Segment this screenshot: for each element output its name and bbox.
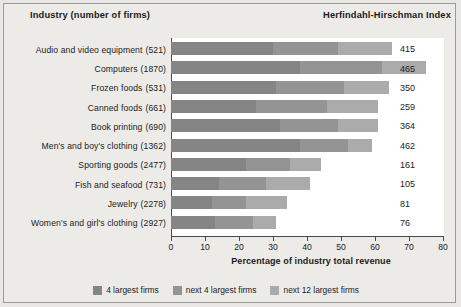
bar-segment[interactable]	[171, 177, 219, 190]
hhi-value: 350	[400, 83, 440, 93]
x-tick	[205, 237, 206, 241]
stacked-bar[interactable]	[171, 196, 287, 209]
firm-count: (521)	[145, 45, 166, 55]
bar-segment[interactable]	[171, 42, 273, 55]
category-label: Canned foods(661)	[88, 103, 166, 113]
bar-segment[interactable]	[256, 100, 327, 113]
bar-segment[interactable]	[171, 216, 215, 229]
x-tick	[341, 237, 342, 241]
bar-segment[interactable]	[338, 42, 392, 55]
x-tick	[409, 237, 410, 241]
legend: 4 largest firmsnext 4 largest firmsnext …	[0, 285, 461, 295]
x-tick-label: 50	[331, 242, 351, 252]
bar-segment[interactable]	[300, 61, 382, 74]
stacked-bar[interactable]	[171, 158, 321, 171]
x-tick-label: 60	[365, 242, 385, 252]
firm-count: (1870)	[141, 64, 166, 74]
legend-item[interactable]: 4 largest firms	[93, 285, 159, 295]
hhi-value: 161	[400, 160, 440, 170]
bar-segment[interactable]	[212, 196, 246, 209]
legend-swatch	[270, 286, 279, 295]
legend-label: next 12 largest firms	[283, 285, 358, 295]
hhi-value: 364	[400, 121, 440, 131]
firm-count: (1362)	[141, 141, 166, 151]
x-tick-label: 80	[433, 242, 453, 252]
industry-column-title: Industry (number of firms)	[30, 10, 150, 20]
firm-count: (690)	[145, 122, 166, 132]
firm-count: (531)	[145, 83, 166, 93]
category-label: Frozen foods(531)	[91, 83, 166, 93]
x-tick	[171, 237, 172, 241]
bar-segment[interactable]	[171, 196, 212, 209]
stacked-bar[interactable]	[171, 61, 426, 74]
x-tick-label: 0	[161, 242, 181, 252]
hhi-value: 415	[400, 44, 440, 54]
bar-segment[interactable]	[215, 216, 252, 229]
category-label: Computers(1870)	[95, 64, 166, 74]
x-tick	[239, 237, 240, 241]
category-label: Sporting goods(2477)	[78, 160, 166, 170]
bar-segment[interactable]	[171, 119, 280, 132]
bar-segment[interactable]	[171, 81, 276, 94]
firm-count: (661)	[145, 103, 166, 113]
hhi-column-title: Herfindahl-Hirschman Index	[323, 10, 451, 20]
firm-count: (731)	[145, 180, 166, 190]
bar-segment[interactable]	[276, 81, 344, 94]
x-tick	[307, 237, 308, 241]
bar-segment[interactable]	[246, 158, 290, 171]
legend-swatch	[173, 286, 182, 295]
bar-segment[interactable]	[338, 119, 379, 132]
bar-segment[interactable]	[348, 139, 372, 152]
hhi-value: 105	[400, 179, 440, 189]
category-label: Jewelry(2278)	[108, 199, 166, 209]
bar-segment[interactable]	[327, 100, 378, 113]
bar-segment[interactable]	[280, 119, 338, 132]
legend-item[interactable]: next 4 largest firms	[173, 285, 257, 295]
bar-segment[interactable]	[246, 196, 287, 209]
hhi-value: 259	[400, 102, 440, 112]
stacked-bar[interactable]	[171, 119, 378, 132]
hhi-value: 462	[400, 141, 440, 151]
bar-segment[interactable]	[171, 61, 300, 74]
x-tick-label: 10	[195, 242, 215, 252]
category-label: Fish and seafood(731)	[75, 180, 166, 190]
x-tick-label: 70	[399, 242, 419, 252]
firm-count: (2278)	[141, 199, 166, 209]
bar-segment[interactable]	[273, 42, 338, 55]
stacked-bar[interactable]	[171, 139, 372, 152]
bar-segment[interactable]	[219, 177, 267, 190]
x-tick-label: 20	[229, 242, 249, 252]
category-label: Men's and boy's clothing(1362)	[42, 141, 166, 151]
bar-segment[interactable]	[290, 158, 321, 171]
stacked-bar[interactable]	[171, 42, 392, 55]
x-tick	[273, 237, 274, 241]
bar-segment[interactable]	[344, 81, 388, 94]
stacked-bar[interactable]	[171, 177, 310, 190]
legend-label: 4 largest firms	[106, 285, 159, 295]
x-axis-title: Percentage of industry total revenue	[171, 256, 451, 266]
stacked-bar[interactable]	[171, 216, 276, 229]
firm-count: (2477)	[141, 160, 166, 170]
bar-segment[interactable]	[266, 177, 310, 190]
category-label: Audio and video equipment(521)	[36, 45, 166, 55]
bar-segment[interactable]	[300, 139, 348, 152]
stacked-bar[interactable]	[171, 81, 389, 94]
category-label: Book printing(690)	[91, 122, 166, 132]
bar-segment[interactable]	[171, 158, 246, 171]
firm-count: (2927)	[141, 218, 166, 228]
hhi-value: 465	[400, 64, 440, 74]
hhi-value: 81	[400, 199, 440, 209]
bar-segment[interactable]	[171, 139, 300, 152]
x-tick-label: 40	[297, 242, 317, 252]
category-label: Women's and girl's clothing(2927)	[31, 218, 166, 228]
x-tick	[375, 237, 376, 241]
legend-label: next 4 largest firms	[186, 285, 257, 295]
bar-segment[interactable]	[171, 100, 256, 113]
legend-swatch	[93, 286, 102, 295]
stacked-bar[interactable]	[171, 100, 378, 113]
hhi-value: 76	[400, 218, 440, 228]
bar-segment[interactable]	[253, 216, 277, 229]
x-tick	[443, 237, 444, 241]
x-tick-label: 30	[263, 242, 283, 252]
legend-item[interactable]: next 12 largest firms	[270, 285, 358, 295]
